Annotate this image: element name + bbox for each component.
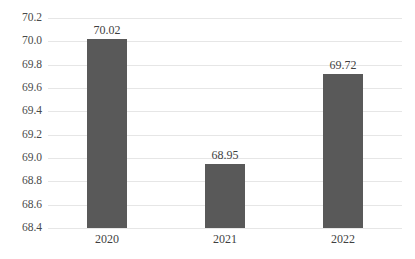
bar[interactable]	[205, 164, 245, 228]
y-tick-label: 70.0	[6, 36, 42, 48]
bar-value-label: 68.95	[212, 149, 239, 161]
y-tick-label: 68.6	[6, 199, 42, 211]
x-tick-label: 2020	[48, 233, 166, 245]
bar-value-label: 70.02	[94, 24, 121, 36]
bar-group: 70.02	[48, 18, 166, 228]
y-tick-label: 69.2	[6, 129, 42, 141]
y-tick-label: 68.4	[6, 222, 42, 234]
y-tick-label: 69.8	[6, 59, 42, 71]
y-tick-label: 68.8	[6, 176, 42, 188]
y-tick-label: 69.4	[6, 106, 42, 118]
bar-group: 68.95	[166, 18, 284, 228]
gridline	[48, 228, 402, 229]
y-tick-label: 69.0	[6, 152, 42, 164]
y-tick-label: 70.2	[6, 12, 42, 24]
bar-group: 69.72	[284, 18, 402, 228]
bar-value-label: 69.72	[330, 59, 357, 71]
x-tick-label: 2022	[284, 233, 402, 245]
bar[interactable]	[323, 74, 363, 228]
bar[interactable]	[87, 39, 127, 228]
y-tick-label: 69.6	[6, 82, 42, 94]
bar-chart: 70.2 70.0 69.8 69.6 69.4 69.2 69.0 68.8 …	[0, 0, 415, 259]
plot-area: 70.02 68.95 69.72	[48, 18, 402, 228]
x-tick-label: 2021	[166, 233, 284, 245]
